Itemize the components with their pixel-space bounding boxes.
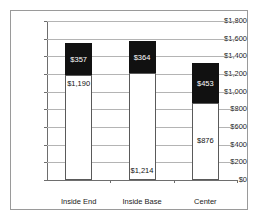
x-axis-category-label: Inside End xyxy=(47,197,110,206)
x-axis-category-label: Inside Base xyxy=(110,197,173,206)
bar-segment-upper: $357 xyxy=(65,43,92,75)
bar-segment-upper: $453 xyxy=(192,63,219,103)
x-tick-mark xyxy=(237,180,238,183)
bar-value-label-lower: $876 xyxy=(193,136,218,145)
bar-inside-base[interactable]: $1,214$364 xyxy=(129,21,156,180)
bar-segment-upper: $364 xyxy=(129,41,156,73)
plot-area: $1,190$357$1,214$364$876$453 xyxy=(47,21,237,180)
bar-center[interactable]: $876$453 xyxy=(192,21,219,180)
bar-value-label-lower: $1,214 xyxy=(130,166,155,175)
bar-segment-lower: $1,190 xyxy=(65,75,92,180)
bar-segment-lower: $1,214 xyxy=(129,73,156,180)
bar-value-label-lower: $1,190 xyxy=(66,79,91,88)
bar-value-label-upper: $453 xyxy=(193,79,218,88)
bar-value-label-upper: $357 xyxy=(66,55,91,64)
gridline xyxy=(47,180,237,181)
x-axis-category-label: Center xyxy=(174,197,237,206)
chart-frame: $1,800$1,600$1,400$1,200$1,000$800$600$4… xyxy=(10,10,248,210)
bar-value-label-upper: $364 xyxy=(130,53,155,62)
x-tick-mark xyxy=(174,180,175,183)
bar-segment-lower: $876 xyxy=(192,103,219,180)
x-tick-mark xyxy=(110,180,111,183)
bar-inside-end[interactable]: $1,190$357 xyxy=(65,21,92,180)
